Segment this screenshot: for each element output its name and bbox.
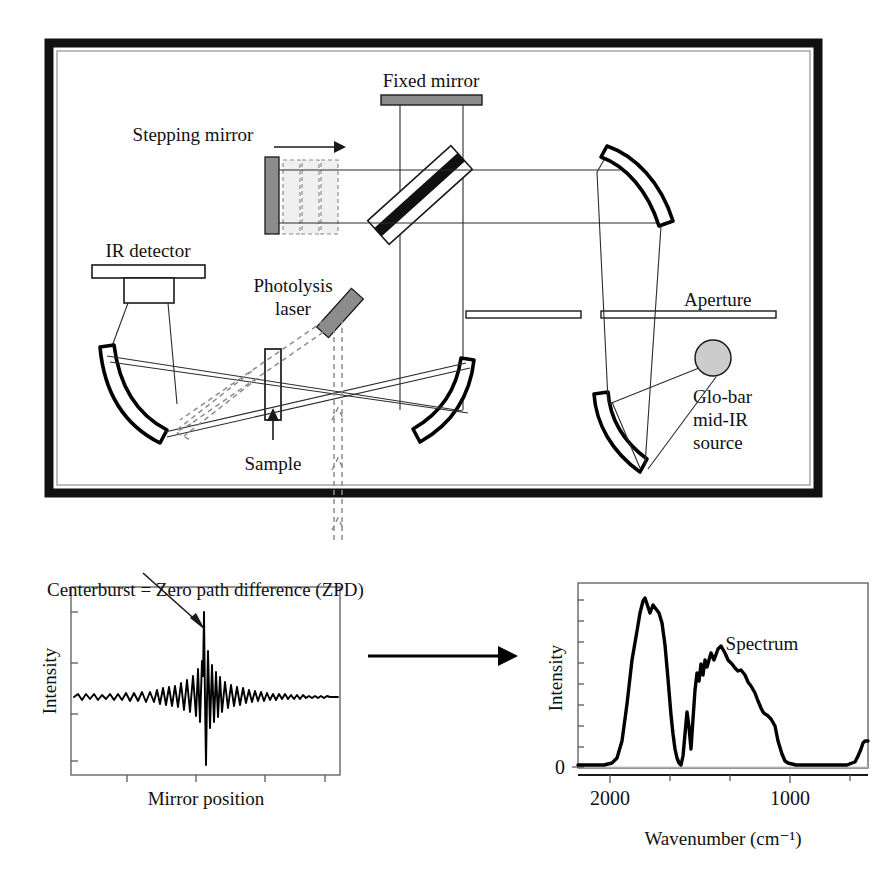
glo-bar-source[interactable] (695, 340, 731, 376)
label-stepping-mirror: Stepping mirror (133, 124, 255, 145)
aperture[interactable] (466, 311, 776, 318)
interferogram-ylabel: Intensity (39, 647, 60, 714)
spectrum-xtick-2000: 2000 (590, 787, 630, 809)
label-photolysis-laser-line1: Photolysis (253, 275, 332, 296)
label-glo-bar-line2: mid-IR (693, 409, 748, 430)
label-glo-bar-line3: source (693, 432, 743, 453)
spectrum-zero-label: 0 (555, 756, 565, 778)
figure-canvas: Fixed mirror Stepping mirror IR detector… (0, 0, 895, 881)
label-photolysis-laser-line2: laser (275, 298, 312, 319)
figure-root: Fixed mirror Stepping mirror IR detector… (0, 0, 895, 881)
label-fixed-mirror: Fixed mirror (383, 70, 480, 91)
spectrum-inline-label: Spectrum (726, 633, 799, 654)
fourier-transform-arrow (368, 646, 518, 666)
spectrum-plot: Intensity 0 2000 1000 Wavenumber (cm⁻¹) … (545, 583, 868, 850)
label-aperture: Aperture (684, 289, 752, 310)
spectrum-ylabel: Intensity (545, 644, 566, 711)
label-ir-detector: IR detector (106, 240, 192, 261)
interferogram-x-ticks (127, 775, 325, 782)
label-sample: Sample (245, 453, 302, 474)
interferogram-trace (74, 612, 338, 765)
spectrum-x-ticks (610, 775, 850, 783)
spectrum-xtick-1000: 1000 (770, 787, 810, 809)
interferogram-xlabel: Mirror position (148, 788, 265, 809)
spectrum-xlabel: Wavenumber (cm⁻¹) (644, 828, 801, 850)
label-glo-bar-line1: Glo-bar (693, 386, 753, 407)
interferogram-y-ticks (71, 612, 78, 761)
spectrum-trace (578, 598, 868, 765)
fixed-mirror[interactable] (381, 95, 482, 105)
interferogram-plot: Centerburst = Zero path difference (ZPD)… (39, 573, 364, 809)
stepping-mirror[interactable] (265, 157, 279, 234)
interferogram-annotation-label: Centerburst = Zero path difference (ZPD) (47, 579, 364, 601)
